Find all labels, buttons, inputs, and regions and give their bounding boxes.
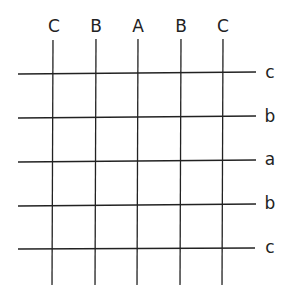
row-label: b bbox=[265, 108, 276, 125]
horizontal-line bbox=[18, 72, 256, 74]
column-label: C bbox=[48, 18, 60, 35]
row-label: b bbox=[265, 195, 276, 212]
horizontal-line bbox=[18, 116, 256, 118]
row-label: c bbox=[265, 64, 274, 81]
column-label: A bbox=[132, 18, 144, 35]
horizontal-line bbox=[18, 248, 255, 249]
row-label: c bbox=[265, 239, 274, 256]
row-label: a bbox=[265, 151, 275, 168]
column-label: C bbox=[217, 18, 229, 35]
column-label: B bbox=[90, 18, 102, 35]
grid bbox=[0, 0, 294, 293]
column-label: B bbox=[175, 18, 187, 35]
